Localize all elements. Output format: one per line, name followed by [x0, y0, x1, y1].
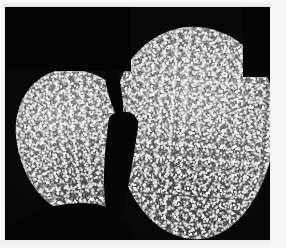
- adjacent-column-text-bleed: · · · · · · · · · · · · · · · · · · · · …: [271, 0, 286, 248]
- micrograph-plate: [5, 7, 270, 240]
- page-header-text: [8, 0, 258, 6]
- scanned-page: · · · · · · · · · · · · · · · · · · · · …: [0, 0, 286, 248]
- page-bottom-margin: [0, 240, 286, 248]
- background-mask-top-right: [243, 7, 270, 77]
- background-mask-top-left: [5, 7, 131, 71]
